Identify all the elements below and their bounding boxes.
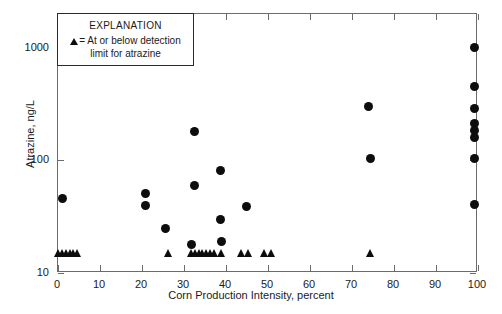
x-axis-tick (268, 265, 269, 271)
x-axis-tick-top (310, 14, 311, 20)
data-point-nondetect (191, 249, 199, 257)
x-axis-tick-top (436, 14, 437, 20)
x-tick-label: 40 (205, 278, 245, 290)
data-point-detect (470, 119, 479, 128)
x-tick-label: 80 (373, 278, 413, 290)
data-point-detect (141, 201, 150, 210)
x-tick-label: 90 (415, 278, 455, 290)
data-point-nondetect (210, 249, 218, 257)
data-point-detect (216, 215, 225, 224)
data-point-detect (190, 127, 199, 136)
legend-box: EXPLANATION = At or below detection limi… (57, 13, 194, 66)
data-point-detect (364, 102, 373, 111)
x-axis-title: Corn Production Intensity, percent (0, 289, 502, 301)
data-point-detect (470, 104, 479, 113)
data-point-detect (470, 126, 479, 135)
x-axis-tick (100, 265, 101, 271)
y-axis-tick-right (470, 48, 476, 49)
x-axis-tick-top (226, 14, 227, 20)
y-tick-label: 1000 (5, 41, 49, 53)
x-axis-tick-top (478, 14, 479, 20)
data-point-nondetect (73, 249, 81, 257)
data-point-detect (161, 224, 170, 233)
data-point-detect (141, 189, 150, 198)
y-axis-tick (58, 160, 64, 161)
legend-entry-line2: limit for atrazine (58, 47, 193, 60)
data-point-nondetect (260, 249, 268, 257)
x-axis-tick (394, 265, 395, 271)
data-point-nondetect (69, 249, 77, 257)
data-point-nondetect (195, 249, 203, 257)
x-tick-label: 30 (163, 278, 203, 290)
data-point-detect (216, 166, 225, 175)
y-tick-label: 10 (5, 266, 49, 278)
x-axis-tick (310, 265, 311, 271)
data-point-detect (190, 181, 199, 190)
x-tick-label: 70 (331, 278, 371, 290)
x-axis-tick (184, 265, 185, 271)
x-tick-label: 0 (37, 278, 77, 290)
x-tick-label: 100 (457, 278, 497, 290)
x-axis-tick-top (394, 14, 395, 20)
data-point-nondetect (198, 249, 206, 257)
data-point-nondetect (206, 249, 214, 257)
data-point-nondetect (58, 249, 66, 257)
x-tick-label: 60 (289, 278, 329, 290)
data-point-detect (242, 202, 251, 211)
data-point-nondetect (54, 249, 62, 257)
x-tick-label: 10 (79, 278, 119, 290)
data-point-detect (217, 237, 226, 246)
y-tick-label: 100 (5, 153, 49, 165)
x-axis-tick (352, 265, 353, 271)
legend-entry-line1: = At or below detection (79, 35, 180, 46)
x-axis-tick (478, 265, 479, 271)
x-axis-tick (436, 265, 437, 271)
y-axis-tick-right (470, 160, 476, 161)
x-axis-tick (142, 265, 143, 271)
atrazine-scatter-figure: Atrazine, ng/L Corn Production Intensity… (0, 0, 502, 314)
data-point-nondetect (237, 249, 245, 257)
data-point-detect (470, 82, 479, 91)
x-axis-tick-top (352, 14, 353, 20)
data-point-nondetect (366, 249, 374, 257)
data-point-detect (58, 194, 67, 203)
data-point-detect (470, 200, 479, 209)
data-point-nondetect (217, 249, 225, 257)
y-axis-title: Atrazine, ng/L (24, 24, 36, 244)
y-axis-tick (58, 273, 64, 274)
x-axis-tick (226, 265, 227, 271)
data-point-detect (366, 154, 375, 163)
x-axis-tick (58, 265, 59, 271)
x-tick-label: 50 (247, 278, 287, 290)
data-point-nondetect (244, 249, 252, 257)
data-point-detect (470, 133, 479, 142)
x-tick-label: 20 (121, 278, 161, 290)
legend-entry: = At or below detection (58, 34, 193, 47)
data-point-nondetect (267, 249, 275, 257)
y-axis-tick-right (470, 273, 476, 274)
x-axis-tick-top (268, 14, 269, 20)
data-point-nondetect (164, 249, 172, 257)
data-point-detect (187, 240, 196, 249)
data-point-nondetect (66, 249, 74, 257)
legend-title: EXPLANATION (58, 19, 193, 32)
triangle-icon (70, 38, 78, 45)
data-point-nondetect (202, 249, 210, 257)
data-point-nondetect (187, 249, 195, 257)
data-point-nondetect (62, 249, 70, 257)
